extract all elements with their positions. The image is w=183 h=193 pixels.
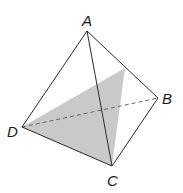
vertex-label-A: A xyxy=(81,12,92,29)
vertex-label-D: D xyxy=(7,123,18,140)
vertex-label-B: B xyxy=(162,90,172,107)
diagram-svg: A B C D xyxy=(0,0,183,193)
tetrahedron-diagram: A B C D xyxy=(0,0,183,193)
vertex-label-C: C xyxy=(107,172,118,189)
